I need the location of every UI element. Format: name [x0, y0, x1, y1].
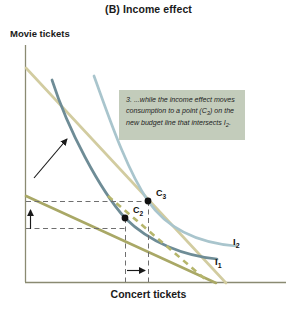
- label-point-c3: C3: [156, 188, 166, 200]
- annotation-line-1: 3. ...while the income effect: [126, 96, 212, 104]
- income-shift-arrow: [34, 139, 67, 178]
- label-point-c2: C2: [133, 205, 143, 217]
- point-c2: [122, 215, 129, 222]
- new-budget-line: [26, 196, 216, 283]
- label-c3-sub: 3: [163, 193, 167, 200]
- annotation-line-3a: point (C: [182, 107, 207, 115]
- label-curve-i2: I2: [233, 236, 240, 249]
- point-c3: [145, 198, 152, 205]
- label-curve-i1: I1: [215, 256, 222, 269]
- annotation-callout: 3. ...while the income effect moves cons…: [119, 90, 245, 140]
- label-c2-sub: 2: [140, 210, 144, 217]
- label-i1-sub: 1: [218, 262, 222, 269]
- annotation-line-4b: .: [229, 119, 231, 127]
- label-i2-sub: 2: [236, 242, 240, 249]
- income-effect-figure: (B) Income effect Movie tickets Concert …: [0, 0, 297, 309]
- annotation-line-4a: line that intersects I: [165, 119, 226, 127]
- plot-canvas: [0, 0, 297, 309]
